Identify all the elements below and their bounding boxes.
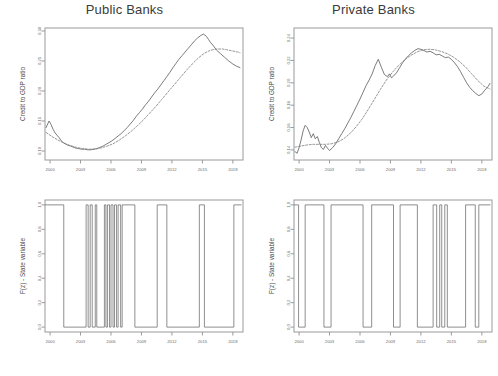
y-tick-label: 0.14 [286,145,291,154]
x-tick-label: 2003 [76,167,86,172]
x-tick-label: 2009 [137,339,147,344]
y-axis-label: Credit to GDP ratio [19,67,26,121]
data-series-line [295,49,490,154]
plot-private-banks-credit: 20002003200620092012201520180.140.160.18… [249,0,498,188]
data-series-line [46,34,240,150]
y-tick-label: 0.20 [286,78,291,87]
panel-private-banks-state: 20002003200620092012201520180.00.20.40.6… [249,188,498,376]
y-tick-label: 0.30 [37,26,42,35]
y-tick-label: 0.18 [286,100,291,109]
data-series-line [295,49,490,147]
x-tick-label: 2012 [167,167,177,172]
x-tick-label: 2000 [45,167,55,172]
y-tick-label: 0.4 [286,275,291,281]
y-tick-label: 0.20 [37,86,42,95]
y-tick-label: 0.15 [37,116,42,125]
data-series-line [45,205,241,327]
y-tick-label: 0.24 [286,33,291,42]
x-tick-label: 2006 [355,167,365,172]
y-tick-label: 0.2 [37,299,42,305]
panel-private-banks-credit: Private Banks 20002003200620092012201520… [249,0,498,188]
x-tick-label: 2009 [386,339,396,344]
x-tick-label: 2006 [355,339,365,344]
x-tick-label: 2009 [386,167,396,172]
x-tick-label: 2012 [416,339,426,344]
x-tick-label: 2009 [137,167,147,172]
y-tick-label: 0.8 [37,226,42,232]
x-tick-label: 2003 [325,167,335,172]
x-tick-label: 2003 [76,339,86,344]
x-tick-label: 2006 [106,339,116,344]
x-tick-label: 2000 [294,167,304,172]
y-tick-label: 0.8 [286,226,291,232]
y-tick-label: 0.22 [286,56,291,65]
svg-private-banks-credit: 20002003200620092012201520180.140.160.18… [249,0,498,188]
y-tick-label: 0.4 [37,275,42,281]
y-tick-label: 0.0 [37,324,42,330]
x-tick-label: 2015 [447,339,457,344]
x-tick-label: 2018 [477,167,487,172]
y-axis-label: F(z) - State variable [19,238,27,295]
x-tick-label: 2012 [416,167,426,172]
plot-private-banks-state: 20002003200620092012201520180.00.20.40.6… [249,188,498,376]
y-tick-label: 0.2 [286,299,291,305]
x-tick-label: 2018 [228,167,238,172]
x-tick-label: 2015 [447,167,457,172]
y-tick-label: 0.0 [286,324,291,330]
x-tick-label: 2000 [45,339,55,344]
svg-private-banks-state: 20002003200620092012201520180.00.20.40.6… [249,188,498,376]
y-tick-label: 0.25 [37,56,42,65]
x-tick-label: 2000 [294,339,304,344]
x-tick-label: 2015 [198,167,208,172]
figure-grid: Public Banks 200020032006200920122015201… [0,0,498,376]
y-tick-label: 0.6 [286,250,291,256]
svg-public-banks-state: 20002003200620092012201520180.00.20.40.6… [0,188,249,376]
plot-public-banks-state: 20002003200620092012201520180.00.20.40.6… [0,188,249,376]
svg-public-banks-credit: 20002003200620092012201520180.100.150.20… [0,0,249,188]
x-tick-label: 2003 [325,339,335,344]
y-tick-label: 0.10 [37,146,42,155]
y-tick-label: 0.16 [286,123,291,132]
panel-public-banks-state: 20002003200620092012201520180.00.20.40.6… [0,188,249,376]
x-tick-label: 2006 [106,167,116,172]
y-tick-label: 1.0 [37,201,42,207]
y-tick-label: 0.6 [37,250,42,256]
x-tick-label: 2015 [198,339,208,344]
plot-public-banks-credit: 20002003200620092012201520180.100.150.20… [0,0,249,188]
x-tick-label: 2018 [228,339,238,344]
x-tick-label: 2012 [167,339,177,344]
data-series-line [294,205,490,327]
y-tick-label: 1.0 [286,201,291,207]
y-axis-label: F(z) - State variable [268,238,276,295]
data-series-line [46,49,240,149]
y-axis-label: Credit to GDP ratio [268,67,275,121]
x-tick-label: 2018 [477,339,487,344]
panel-public-banks-credit: Public Banks 200020032006200920122015201… [0,0,249,188]
